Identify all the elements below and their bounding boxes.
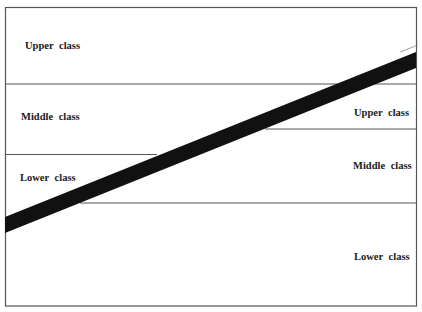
right-label-middle: Middle class [353,160,412,171]
left-label-lower: Lower class [20,172,76,183]
left-label-upper: Upper class [25,40,80,51]
band-edge [400,45,418,52]
social-shift-band [5,52,416,233]
left-label-middle: Middle class [21,111,80,122]
right-label-lower: Lower class [354,251,410,262]
right-label-upper: Upper class [354,107,409,118]
